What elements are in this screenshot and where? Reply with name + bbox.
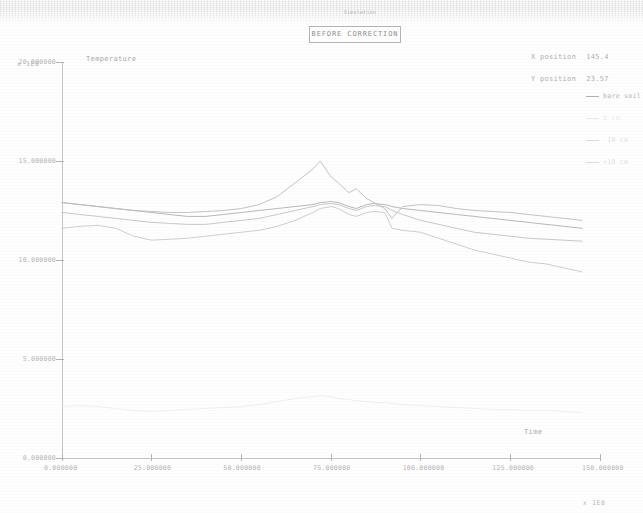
data-series-line — [62, 396, 582, 413]
x-tick-label: 25.000000 — [134, 464, 171, 472]
x-tick-label: 125.000000 — [492, 464, 534, 472]
plot-canvas — [0, 0, 643, 513]
axes-layer — [56, 62, 600, 461]
y-tick-label: 20.000000 — [8, 58, 56, 66]
x-tick-label: 50.000000 — [223, 464, 260, 472]
data-series-line — [62, 202, 582, 229]
x-tick-label: 75.000000 — [313, 464, 350, 472]
y-tick-label: 5.000000 — [8, 355, 56, 363]
data-series-line — [62, 204, 582, 242]
x-tick-label: 0.000000 — [44, 464, 77, 472]
x-tick-label: 150.000000 — [582, 464, 624, 472]
y-tick-label: 10.000000 — [8, 256, 56, 264]
series-layer — [62, 161, 582, 412]
y-tick-label: 15.000000 — [8, 157, 56, 165]
y-tick-label: 0.000000 — [8, 454, 56, 462]
x-tick-label: 100.000000 — [403, 464, 445, 472]
data-series-line — [62, 207, 582, 272]
plot-application-window: Simulation BEFORE CORRECTION x 1E0 Tempe… — [0, 0, 643, 513]
